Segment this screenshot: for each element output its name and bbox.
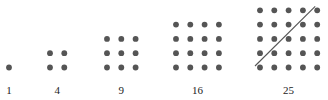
dot (257, 22, 263, 28)
dot (300, 22, 306, 28)
dot (202, 65, 208, 71)
dot (104, 65, 110, 71)
dot-array-1: 1 (6, 65, 12, 96)
dot (6, 65, 12, 71)
dot (61, 65, 67, 71)
dot (314, 36, 320, 42)
dot (257, 7, 263, 13)
dot (257, 50, 263, 56)
dot (257, 36, 263, 42)
dot (187, 50, 193, 56)
dot (47, 65, 53, 71)
dot (202, 50, 208, 56)
dot (314, 7, 320, 13)
dot (173, 36, 179, 42)
dot (257, 65, 263, 71)
dot (133, 50, 139, 56)
dot (133, 36, 139, 42)
dot (286, 50, 292, 56)
dot (61, 50, 67, 56)
figure-label: 16 (192, 84, 204, 96)
diagonal-line (255, 6, 315, 66)
dot (118, 50, 124, 56)
dot (216, 22, 222, 28)
dot (118, 36, 124, 42)
dot (271, 22, 277, 28)
figure-label: 9 (119, 84, 125, 96)
dot (300, 50, 306, 56)
dot (314, 65, 320, 71)
square-numbers-diagram: 1491625 (0, 0, 328, 100)
dot (271, 50, 277, 56)
dot (187, 65, 193, 71)
dot (300, 7, 306, 13)
dot-array-9: 9 (104, 36, 138, 96)
dot (286, 22, 292, 28)
dot (187, 36, 193, 42)
dot (286, 7, 292, 13)
dot (118, 65, 124, 71)
figure-label: 25 (283, 84, 295, 96)
dot (202, 22, 208, 28)
dot (173, 65, 179, 71)
dot (271, 7, 277, 13)
figure-label: 4 (54, 84, 60, 96)
dot (286, 65, 292, 71)
dot (300, 36, 306, 42)
dot-array-25: 25 (255, 6, 320, 96)
dot (271, 65, 277, 71)
dot (286, 36, 292, 42)
dot-array-16: 16 (173, 22, 222, 96)
dot (47, 50, 53, 56)
dot (314, 50, 320, 56)
dot (173, 50, 179, 56)
dot (216, 65, 222, 71)
dot (173, 22, 179, 28)
dot (216, 50, 222, 56)
dot (187, 22, 193, 28)
figure-label: 1 (6, 84, 12, 96)
dot (314, 22, 320, 28)
dot-array-4: 4 (47, 50, 67, 96)
dot (133, 65, 139, 71)
dot (271, 36, 277, 42)
dot (104, 50, 110, 56)
dot (202, 36, 208, 42)
dot (300, 65, 306, 71)
dot (216, 36, 222, 42)
dot (104, 36, 110, 42)
